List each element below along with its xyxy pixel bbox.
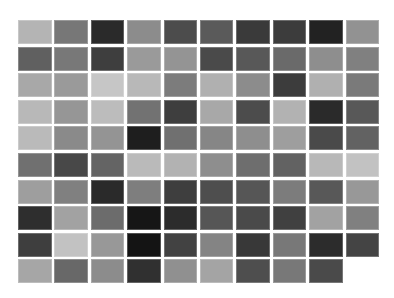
gray-swatch (91, 20, 125, 44)
gray-swatch (18, 153, 52, 177)
gray-swatch (200, 126, 234, 150)
gray-swatch (54, 47, 88, 71)
gray-swatch (200, 259, 234, 283)
gray-swatch (91, 100, 125, 124)
gray-swatch (127, 20, 161, 44)
gray-swatch (91, 180, 125, 204)
gray-swatch (236, 20, 270, 44)
gray-swatch (236, 206, 270, 230)
gray-swatch (18, 47, 52, 71)
gray-swatch (236, 73, 270, 97)
gray-swatch (127, 100, 161, 124)
gray-swatch (54, 100, 88, 124)
gray-swatch (309, 47, 343, 71)
gray-swatch (236, 180, 270, 204)
gray-swatch (236, 153, 270, 177)
gray-swatch (54, 126, 88, 150)
gray-swatch (91, 126, 125, 150)
gray-swatch (127, 47, 161, 71)
gray-swatch (54, 153, 88, 177)
gray-swatch (309, 206, 343, 230)
gray-swatch (346, 206, 380, 230)
gray-swatch (127, 153, 161, 177)
gray-swatch (273, 20, 307, 44)
gray-swatch (54, 233, 88, 257)
gray-swatch (236, 259, 270, 283)
gray-swatch (309, 20, 343, 44)
gray-swatch (346, 126, 380, 150)
gray-swatch (164, 20, 198, 44)
gray-swatch (91, 153, 125, 177)
gray-swatch (164, 153, 198, 177)
gray-swatch (164, 100, 198, 124)
gray-swatch (236, 47, 270, 71)
gray-swatch (200, 180, 234, 204)
gray-swatch (273, 73, 307, 97)
gray-swatch (309, 100, 343, 124)
gray-swatch (164, 73, 198, 97)
gray-swatch (18, 126, 52, 150)
gray-swatch (164, 233, 198, 257)
gray-swatch (54, 20, 88, 44)
gray-swatch (273, 180, 307, 204)
gray-swatch (91, 259, 125, 283)
gray-swatch (309, 153, 343, 177)
gray-swatch (346, 153, 380, 177)
canvas (0, 0, 394, 298)
gray-swatch (346, 47, 380, 71)
gray-swatch (200, 153, 234, 177)
gray-swatch (200, 20, 234, 44)
gray-swatch (127, 233, 161, 257)
gray-swatch (54, 73, 88, 97)
gray-swatch (309, 259, 343, 283)
gray-swatch (91, 206, 125, 230)
gray-swatch (127, 206, 161, 230)
gray-swatch (127, 259, 161, 283)
gray-swatch (164, 47, 198, 71)
gray-swatch (91, 233, 125, 257)
gray-swatch (273, 259, 307, 283)
gray-swatch (273, 233, 307, 257)
gray-swatch (346, 20, 380, 44)
gray-swatch (54, 180, 88, 204)
gray-swatch (18, 100, 52, 124)
gray-swatch (91, 73, 125, 97)
gray-swatch (346, 100, 380, 124)
gray-swatch (18, 73, 52, 97)
gray-swatch (236, 233, 270, 257)
gray-swatch (164, 259, 198, 283)
gray-swatch (346, 73, 380, 97)
gray-swatch (309, 233, 343, 257)
gray-swatch (200, 233, 234, 257)
gray-swatch (200, 100, 234, 124)
gray-swatch (200, 47, 234, 71)
gray-swatch (346, 180, 380, 204)
gray-swatch (18, 259, 52, 283)
gray-swatch (309, 126, 343, 150)
gray-swatch (273, 153, 307, 177)
gray-swatch (273, 126, 307, 150)
gray-swatch (18, 180, 52, 204)
gray-swatch (164, 126, 198, 150)
gray-swatch (18, 20, 52, 44)
gray-swatch (346, 233, 380, 257)
gray-swatch (127, 180, 161, 204)
gray-swatch (273, 100, 307, 124)
gray-swatch (200, 206, 234, 230)
gray-swatch (91, 47, 125, 71)
gray-swatch (18, 233, 52, 257)
gray-swatch (164, 206, 198, 230)
gray-swatch (164, 180, 198, 204)
gray-swatch (309, 73, 343, 97)
gray-swatch (236, 100, 270, 124)
gray-swatch (236, 126, 270, 150)
gray-swatch (18, 206, 52, 230)
gray-swatch-grid (18, 20, 379, 283)
gray-swatch (127, 126, 161, 150)
gray-swatch (54, 206, 88, 230)
gray-swatch (200, 73, 234, 97)
gray-swatch (127, 73, 161, 97)
gray-swatch (309, 180, 343, 204)
gray-swatch (54, 259, 88, 283)
gray-swatch (273, 47, 307, 71)
